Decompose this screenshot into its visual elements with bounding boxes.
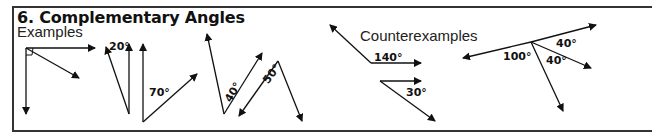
example-70-degree-angle <box>143 44 197 122</box>
example-right-angle-diagram <box>26 48 95 114</box>
angle-label-40-upper: 40° <box>556 37 577 50</box>
angle-label-70: 70° <box>149 86 170 99</box>
angle-label-40: 40° <box>222 80 244 105</box>
angle-label-30: 30° <box>406 86 427 99</box>
angle-label-40-lower: 40° <box>546 54 567 67</box>
example-20-degree-angle <box>106 44 129 114</box>
angle-label-140: 140° <box>374 51 402 64</box>
angle-label-100: 100° <box>503 50 531 63</box>
angle-label-20: 20° <box>109 40 130 53</box>
